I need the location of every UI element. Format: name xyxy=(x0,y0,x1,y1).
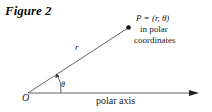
radius-label: r xyxy=(75,42,79,52)
point-label-line2: in polar xyxy=(140,24,168,34)
axis-label: polar axis xyxy=(96,95,135,106)
origin-label: O xyxy=(22,92,29,103)
point-p-dot xyxy=(126,25,131,30)
angle-label: θ xyxy=(61,80,65,89)
arrowhead-icon xyxy=(189,90,199,96)
polar-coordinates-diagram: O r θ P = (r, θ) in polar coordinates po… xyxy=(0,0,212,112)
point-label-line1: P = (r, θ) xyxy=(135,13,169,23)
point-label-line3: coordinates xyxy=(134,35,176,45)
radius-ray xyxy=(28,28,128,93)
